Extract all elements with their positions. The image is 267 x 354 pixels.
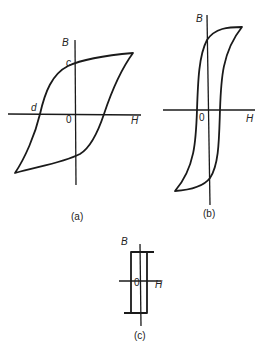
panel-a-h-axis [8,114,141,115]
panel-b-caption: (b) [203,209,215,219]
panel-a-loop [15,53,133,173]
panel-b-b-label: B [196,14,203,24]
panel-c-origin-label: 0 [134,278,140,288]
panel-a-origin-label: 0 [66,115,72,125]
panel-a-b-label: B [62,38,69,48]
panel-b-origin-label: 0 [199,113,205,123]
panel-c-h-label: H [155,280,162,290]
panel-a-c-label: c [66,58,71,68]
panel-a [8,40,141,185]
panel-a-caption: (a) [71,212,83,222]
panel-a-h-label: H [131,116,138,126]
panel-b [163,15,255,205]
panel-c-caption: (c) [134,331,146,341]
hysteresis-figure [0,0,267,354]
panel-b-h-label: H [246,114,253,124]
panel-a-d-label: d [31,103,37,113]
panel-c-b-label: B [121,237,128,247]
panel-a-b-axis [75,40,76,185]
